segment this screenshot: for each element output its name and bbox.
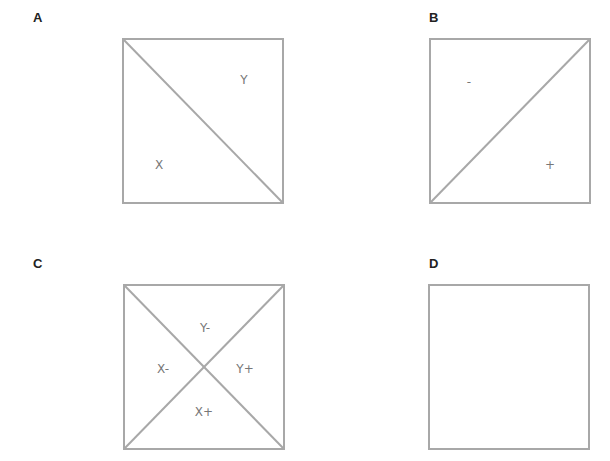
panel-b-region-minus-label: -	[467, 75, 471, 89]
panel-d-border	[429, 285, 589, 449]
panel-c-region-x-plus-label: X+	[195, 405, 213, 419]
panel-d-label: D	[429, 256, 438, 271]
panel-c-region-y-minus-label: Y-	[200, 321, 210, 335]
panel-c-region-x-minus-label: X-	[157, 362, 169, 376]
panel-a-square	[122, 38, 284, 204]
panel-a-label: A	[33, 10, 42, 25]
panel-b-diagonal	[430, 39, 590, 203]
panel-c-label: C	[33, 256, 42, 271]
panel-c-square	[123, 284, 285, 450]
panel-b-region-plus-label: +	[545, 158, 555, 172]
panel-a-region-x-label: X	[155, 158, 163, 172]
panel-b-square	[429, 38, 591, 204]
panel-c-region-y-plus-label: Y+	[236, 362, 253, 376]
panel-d-square	[428, 284, 590, 450]
panel-a-diagonal	[123, 39, 283, 203]
panel-b-label: B	[429, 10, 438, 25]
panel-a-region-y-label: Y	[240, 73, 247, 87]
